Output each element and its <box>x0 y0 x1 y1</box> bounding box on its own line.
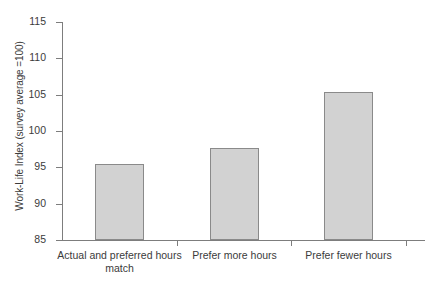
x-tick-mark <box>177 241 178 246</box>
y-tick-label: 105 <box>0 89 46 100</box>
y-tick-mark <box>56 240 62 241</box>
bar-chart: Work-Life Index (survey average =100) 85… <box>0 0 441 284</box>
y-tick-label-wrap: 100 <box>0 131 52 132</box>
x-axis-category-label: Actual and preferred hoursmatch <box>55 249 184 275</box>
y-tick-label: 95 <box>0 161 46 172</box>
y-tick-mark <box>56 204 62 205</box>
y-tick-label: 110 <box>0 52 46 63</box>
y-tick-label: 100 <box>0 125 46 136</box>
y-tick-label-wrap: 85 <box>0 240 52 241</box>
x-axis-category-label-line: match <box>55 262 184 275</box>
y-tick-label-wrap: 110 <box>0 58 52 59</box>
y-tick-label-wrap: 105 <box>0 95 52 96</box>
bar <box>324 92 373 240</box>
y-tick-label-wrap: 90 <box>0 204 52 205</box>
y-tick-label: 115 <box>0 16 46 27</box>
y-tick-mark <box>56 167 62 168</box>
x-axis-category-label-line: Actual and preferred hours <box>55 249 184 262</box>
x-tick-mark <box>291 241 292 246</box>
y-tick-mark <box>56 131 62 132</box>
y-tick-label-wrap: 115 <box>0 22 52 23</box>
y-tick-mark <box>56 58 62 59</box>
y-tick-mark <box>56 22 62 23</box>
bar <box>210 148 259 240</box>
x-axis-category-label: Prefer fewer hours <box>284 249 413 262</box>
x-tick-mark <box>406 241 407 246</box>
x-axis-category-label: Prefer more hours <box>170 249 299 262</box>
y-tick-mark <box>56 95 62 96</box>
y-tick-label: 85 <box>0 234 46 245</box>
x-axis-category-label-line: Prefer fewer hours <box>284 249 413 262</box>
x-axis-line <box>62 240 425 241</box>
y-axis-line <box>62 22 63 241</box>
y-tick-label-wrap: 95 <box>0 167 52 168</box>
bar <box>95 164 144 240</box>
y-tick-label: 90 <box>0 198 46 209</box>
x-axis-category-label-line: Prefer more hours <box>170 249 299 262</box>
